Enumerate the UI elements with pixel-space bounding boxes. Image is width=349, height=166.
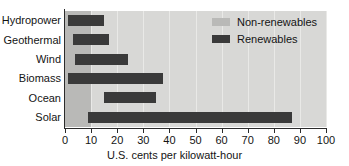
x-tick-label: 10 (85, 134, 97, 146)
x-tick-mark (300, 129, 301, 133)
legend-swatch-non-renewables (212, 18, 230, 26)
x-tick-label: 60 (215, 134, 227, 146)
x-tick-mark (222, 129, 223, 133)
x-tick-mark (196, 129, 197, 133)
x-tick-label: 40 (163, 134, 175, 146)
legend-swatch-renewables (212, 35, 230, 43)
legend-item-renewables: Renewables (212, 31, 342, 46)
x-tick-mark (65, 129, 66, 133)
y-axis-label-geothermal: Geothermal (0, 35, 61, 46)
legend-label-renewables: Renewables (237, 33, 298, 45)
x-tick-mark (117, 129, 118, 133)
x-tick-label: 20 (111, 134, 123, 146)
x-tick-mark (274, 129, 275, 133)
y-axis-label-wind: Wind (0, 54, 61, 65)
y-axis-label-solar: Solar (0, 112, 61, 123)
x-tick-mark (248, 129, 249, 133)
x-tick-label: 100 (317, 134, 335, 146)
legend: Non-renewables Renewables (212, 14, 342, 48)
x-tick-label: 80 (268, 134, 280, 146)
y-axis-label-ocean: Ocean (0, 93, 61, 104)
x-tick-mark (326, 129, 327, 133)
x-tick-label: 30 (137, 134, 149, 146)
legend-item-non-renewables: Non-renewables (212, 14, 342, 29)
x-axis-title: U.S. cents per kilowatt-hour (0, 149, 349, 161)
x-tick-label: 70 (242, 134, 254, 146)
x-tick-mark (143, 129, 144, 133)
y-axis-label-hydropower: Hydropower (0, 15, 61, 26)
x-tick-label: 90 (294, 134, 306, 146)
x-tick-label: 0 (62, 134, 68, 146)
legend-label-non-renewables: Non-renewables (237, 16, 317, 28)
x-tick-mark (91, 129, 92, 133)
x-tick-label: 50 (189, 134, 201, 146)
x-tick-mark (169, 129, 170, 133)
bar-chart: HydropowerGeothermalWindBiomassOceanSola… (0, 0, 349, 166)
y-axis-label-biomass: Biomass (0, 73, 61, 84)
